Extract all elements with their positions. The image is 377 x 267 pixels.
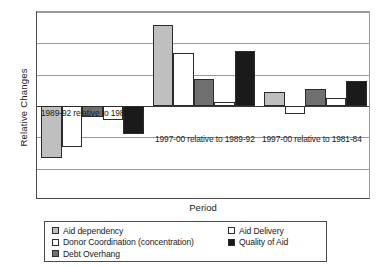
bar-chart-figure: Relative Changes 1989-92 relative to 198… bbox=[0, 0, 377, 267]
gridline bbox=[37, 43, 369, 44]
legend-item: Debt Overhang bbox=[52, 248, 194, 260]
bar bbox=[153, 25, 174, 106]
legend-swatch-icon bbox=[228, 239, 235, 246]
legend-swatch-icon bbox=[52, 227, 59, 234]
legend-label: Quality of Aid bbox=[239, 237, 288, 247]
legend-label: Aid dependency bbox=[63, 226, 123, 236]
legend-label: Donor Coordination (concentration) bbox=[63, 237, 194, 247]
legend-swatch-icon bbox=[52, 239, 59, 246]
legend-label: Aid Delivery bbox=[239, 226, 284, 236]
gridline bbox=[37, 12, 369, 13]
x-axis-title: Period bbox=[36, 202, 370, 213]
legend-swatch-icon bbox=[52, 250, 59, 257]
bar bbox=[264, 92, 285, 106]
bar bbox=[285, 106, 306, 114]
y-axis-title: Relative Changes bbox=[18, 38, 29, 178]
group-annotation-label: 1989-92 relative to 1981-84 bbox=[41, 108, 141, 118]
legend-item: Donor Coordination (concentration) bbox=[52, 237, 194, 249]
legend-item: Aid dependency bbox=[52, 225, 194, 237]
legend-item: Aid Delivery bbox=[228, 225, 288, 237]
bar bbox=[346, 81, 367, 106]
legend-column-left: Aid dependencyDonor Coordination (concen… bbox=[52, 225, 194, 260]
bar bbox=[214, 102, 235, 106]
legend-swatch-icon bbox=[228, 227, 235, 234]
legend-column-right: Aid DeliveryQuality of Aid bbox=[228, 225, 288, 248]
bar bbox=[305, 89, 326, 106]
group-annotation-label: 1997-00 relative to 1981-84 bbox=[262, 134, 362, 144]
gridline bbox=[37, 169, 369, 170]
group-annotation-label: 1997-00 relative to 1989-92 bbox=[155, 134, 255, 144]
legend-label: Debt Overhang bbox=[63, 249, 120, 259]
bar bbox=[194, 79, 215, 106]
bar bbox=[235, 51, 256, 106]
bar bbox=[173, 53, 194, 106]
plot-area: 1989-92 relative to 1981-841997-00 relat… bbox=[36, 11, 370, 199]
bar bbox=[326, 98, 347, 106]
gridline bbox=[37, 75, 369, 76]
chart-legend: Aid dependencyDonor Coordination (concen… bbox=[44, 221, 327, 262]
legend-item: Quality of Aid bbox=[228, 237, 288, 249]
